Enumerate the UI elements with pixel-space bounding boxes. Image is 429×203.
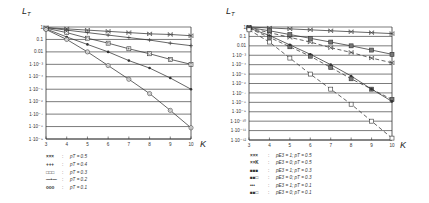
x-tick-label: 8: [350, 143, 353, 148]
legend-symbol: ■■■: [250, 168, 259, 173]
y-tick-label: 1·10⁻³: [232, 53, 246, 58]
legend-label: pE3 = 0; pT = 0.1: [275, 190, 312, 195]
x-axis-label: K: [400, 140, 407, 150]
data-point-square-4: [127, 47, 131, 51]
data-point-square-filled-4: [329, 65, 333, 69]
y-axis-label: LT: [22, 6, 32, 17]
legend-symbol: +++: [46, 162, 54, 167]
data-point-square-open-2: [288, 56, 292, 60]
data-point-square-filled-3: [308, 36, 312, 40]
data-point-square-open-0: [247, 28, 251, 32]
data-point-circle-2: [85, 50, 89, 54]
y-tick-label: 1·10⁻⁷: [232, 91, 246, 96]
y-tick-label: 1·10⁻¹²: [231, 138, 247, 143]
data-point-square-filled-7: [390, 52, 394, 56]
legend-separator: :: [268, 153, 269, 158]
x-tick-label: 9: [169, 142, 172, 147]
x-tick-label: 10: [389, 143, 395, 148]
data-point-plus-3: [106, 33, 110, 37]
legend-symbol: ×××: [46, 154, 54, 159]
data-point-square-1: [65, 31, 69, 35]
legend-symbol: —•—: [46, 177, 57, 182]
data-point-square-2: [85, 36, 89, 40]
data-point-dot-3: [107, 51, 110, 54]
x-axis-label: K: [200, 139, 207, 149]
series-line: [249, 28, 392, 63]
data-point-circle-1: [65, 37, 69, 41]
y-tick-label: 0.01: [237, 43, 246, 48]
data-point-square-open-3: [308, 72, 312, 76]
data-point-square-7: [189, 62, 193, 66]
legend: ×××:pE3 = 1; pT = 0.5××K:pE3 = 0; pT = 0…: [250, 153, 312, 195]
y-tick-label: 1·10⁻⁴: [29, 74, 43, 79]
x-tick-label: 8: [148, 142, 151, 147]
y-axis-label-subscript: T: [231, 11, 236, 17]
y-tick-label: 1·10⁻⁹: [29, 137, 43, 142]
data-point-plus-4: [127, 36, 131, 40]
data-point-circle-4: [127, 77, 131, 81]
x-tick-label: 4: [65, 142, 68, 147]
data-point-square-open-7: [390, 136, 394, 140]
legend-label: pE3 = 1; pT = 0.1: [275, 183, 312, 188]
data-point-square-3: [106, 41, 110, 45]
data-point-square-filled-5: [349, 77, 353, 81]
y-tick-label: 1·10⁻⁶: [29, 99, 43, 104]
legend-label: pT = 0.4: [69, 162, 87, 167]
legend-separator: :: [268, 168, 269, 173]
data-point-square-open-1: [267, 40, 271, 44]
data-point-dot-2: [289, 44, 292, 47]
x-tick-label: 10: [188, 142, 194, 147]
legend-symbol: □□□: [46, 170, 55, 175]
y-tick-label: 1·10⁻³: [29, 62, 43, 67]
x-tick-label: 3: [45, 142, 48, 147]
legend: ××× :pT = 0.5+++:pT = 0.4□□□:pT = 0.3—•—…: [46, 154, 87, 190]
data-point-square-filled-5: [349, 44, 353, 48]
legend-label: pT = 0.5: [69, 154, 87, 159]
legend-separator: :: [268, 190, 269, 195]
y-tick-label: 1·10⁻⁸: [29, 124, 43, 129]
y-tick-label: 0.01: [34, 49, 43, 54]
legend-separator: :: [268, 160, 269, 165]
x-tick-label: 7: [128, 142, 131, 147]
legend-separator: :: [62, 177, 63, 182]
data-point-dot-7: [391, 100, 394, 103]
y-tick-label: 1·10⁻⁶: [232, 81, 246, 86]
data-point-circle-0: [44, 27, 48, 31]
data-point-square-5: [148, 52, 152, 56]
data-point-dot-6: [169, 77, 172, 80]
x-tick-label: 6: [309, 143, 312, 148]
y-tick-label: 0.1: [240, 34, 247, 39]
x-tick-label: 6: [107, 142, 110, 147]
data-point-dot-3: [309, 53, 312, 56]
data-point-circle-6: [168, 108, 172, 112]
data-point-square-open-6: [370, 119, 374, 123]
data-point-plus-5: [148, 38, 152, 42]
data-point-square-open-5: [349, 102, 353, 106]
data-point-dot-6: [370, 88, 373, 91]
x-tick-label: 4: [268, 143, 271, 148]
data-point-plus-6: [168, 41, 172, 45]
data-point-dot-2: [86, 43, 89, 46]
data-point-square-filled-4: [329, 40, 333, 44]
legend-label: pT = 0.3: [69, 170, 87, 175]
chart-panel-1: 10.10.011·10⁻³1·10⁻⁴1·10⁻⁵1·10⁻⁶1·10⁻⁷1·…: [22, 6, 207, 190]
y-tick-label: 1: [243, 25, 246, 30]
data-point-square-filled-1: [267, 29, 271, 33]
legend-label: pT = 0.1: [69, 185, 87, 190]
x-tick-label: 3: [248, 143, 251, 148]
legend-symbol: ■■□: [250, 190, 259, 195]
data-point-dot-5: [350, 75, 353, 78]
data-point-dot-1: [268, 34, 271, 37]
legend-symbol: ■■□: [250, 175, 259, 180]
legend-separator: :: [268, 183, 269, 188]
data-point-plus-7: [189, 44, 193, 48]
legend-separator: :: [62, 154, 63, 159]
legend-label: pE3 = 1; pT = 0.5: [275, 153, 312, 158]
y-tick-label: 1·10⁻⁵: [232, 72, 246, 77]
x-tick-label: 7: [329, 143, 332, 148]
x-tick-label: 5: [289, 143, 292, 148]
chart-panel-2: 10.10.011·10⁻³1·10⁻⁴1·10⁻⁵1·10⁻⁶1·10⁻⁷1·…: [226, 6, 407, 195]
legend-separator: :: [62, 185, 63, 190]
y-tick-label: 1·10⁻¹¹: [231, 128, 247, 133]
x-tick-label: 9: [370, 143, 373, 148]
